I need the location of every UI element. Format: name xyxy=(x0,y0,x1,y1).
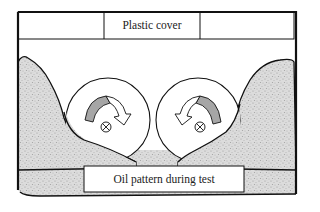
plastic-cover-label: Plastic cover xyxy=(104,12,200,38)
left-axle-cross-icon xyxy=(101,122,111,132)
right-axle-cross-icon xyxy=(195,122,205,132)
oil-pattern-label: Oil pattern during test xyxy=(84,166,244,192)
